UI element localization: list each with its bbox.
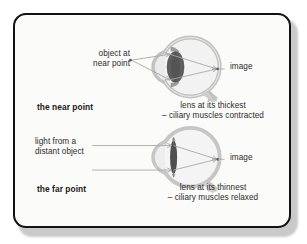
near-point-caption: lens at its thickest – ciliary muscles c… xyxy=(143,101,283,120)
far-point-caption: lens at its thinnest – ciliary muscles r… xyxy=(143,183,283,202)
source-label-line2: distant object xyxy=(35,147,84,156)
near-point-title: the near point xyxy=(37,103,93,113)
cornea-far xyxy=(153,142,165,173)
image-label-far: image xyxy=(230,153,253,163)
near-caption-line2: – ciliary muscles contracted xyxy=(162,111,264,120)
near-point-eye-diagram xyxy=(129,38,225,103)
light-from-distant-object-label: light from a distant object xyxy=(35,137,107,156)
far-caption-line2: – ciliary muscles relaxed xyxy=(168,193,258,202)
diagram-card: object at near point image the near poin… xyxy=(13,13,291,228)
object-label-line1: object at xyxy=(99,49,130,58)
far-point-title: the far point xyxy=(37,185,86,195)
far-caption-line1: lens at its thinnest xyxy=(180,183,247,192)
image-label-near: image xyxy=(230,62,253,72)
object-label-line2: near point xyxy=(93,59,130,68)
near-caption-line1: lens at its thickest xyxy=(180,101,246,110)
source-label-line1: light from a xyxy=(35,137,76,146)
figure-page: object at near point image the near poin… xyxy=(0,0,307,244)
object-at-near-point-label: object at near point xyxy=(68,49,130,68)
